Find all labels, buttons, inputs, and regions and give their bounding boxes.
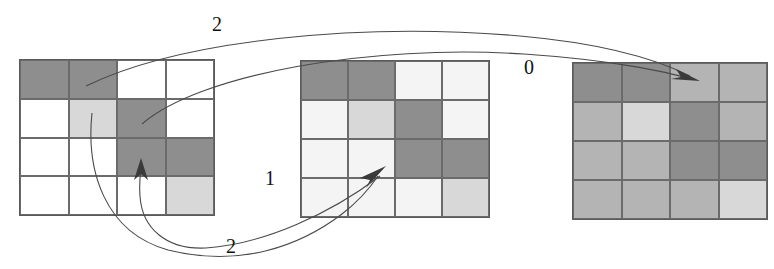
arrow-label-one: 1 [265,168,275,188]
arrow-label-top: 2 [212,14,222,34]
arrow-label-bottom: 2 [226,236,236,256]
bottom-arrowhead [134,158,148,180]
arrow-label-zero: 0 [524,57,534,77]
arrow-layer [0,0,774,269]
middle-arrowhead [360,166,386,188]
bottom-arrow-curve [140,170,380,248]
top-arrow-inner-curve [142,52,690,124]
top-arrow-outer-curve [86,31,690,86]
figure-canvas: 2 0 1 2 [0,0,774,269]
